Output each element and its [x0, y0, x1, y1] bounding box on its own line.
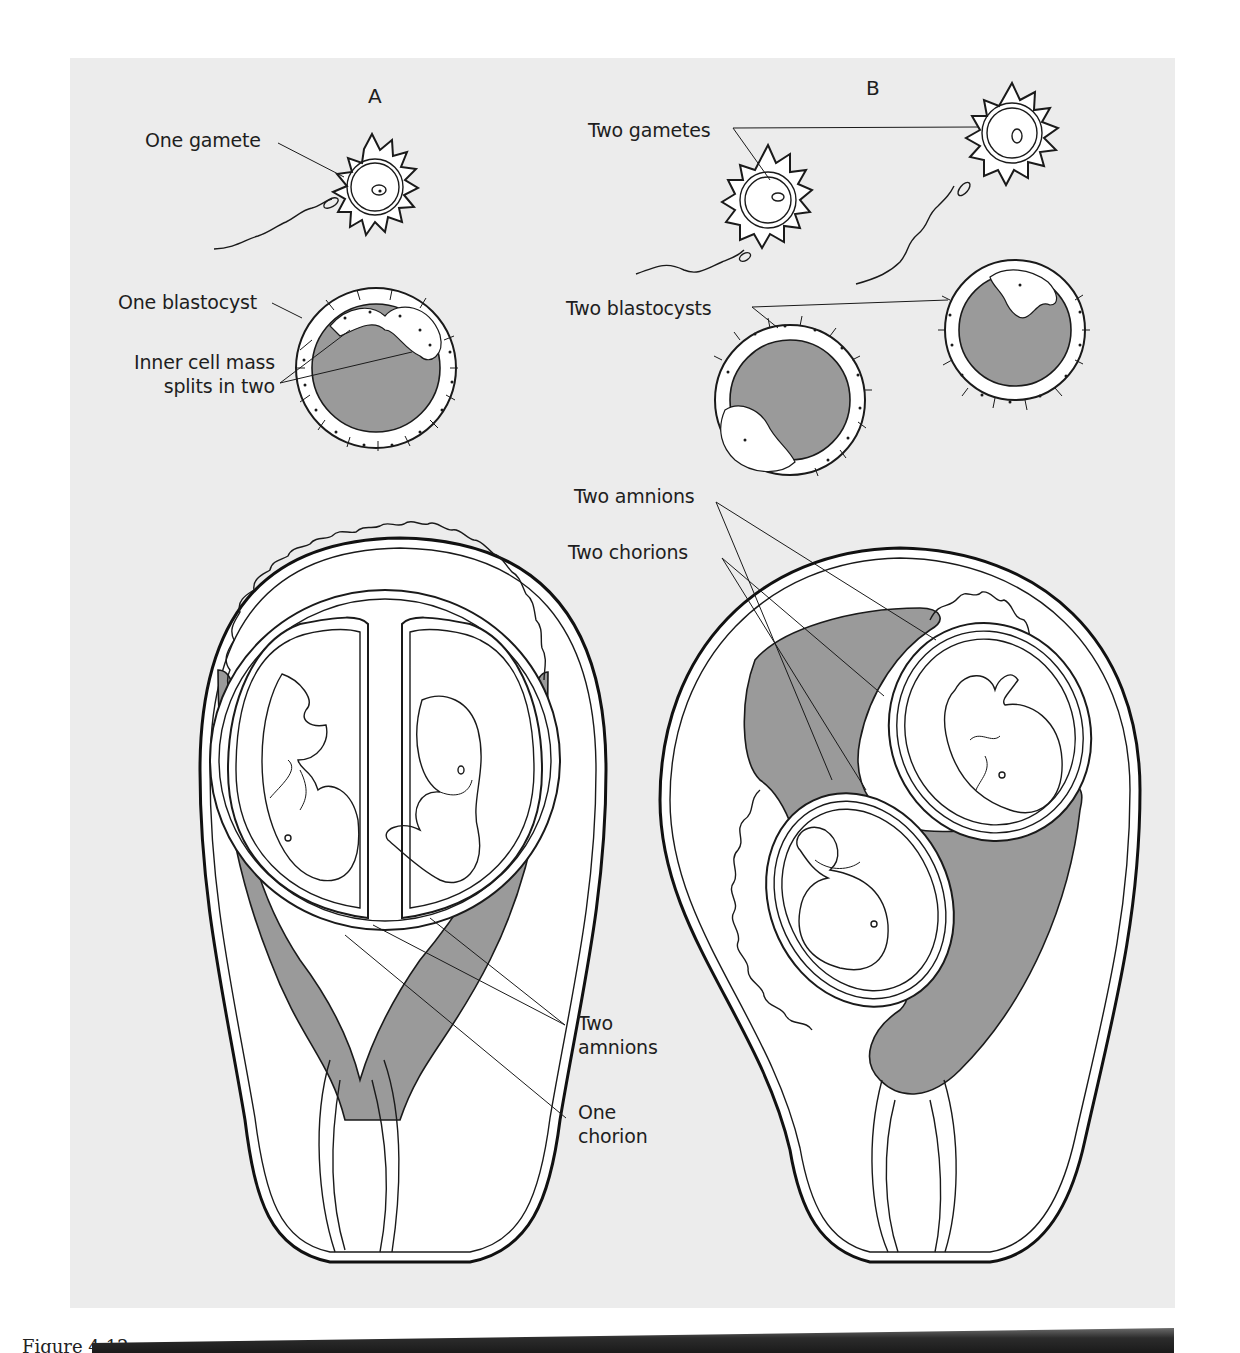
label-two-amnions-a: Two amnions — [578, 1011, 658, 1059]
blastocyst-a — [272, 288, 458, 451]
panel-a-header: A — [368, 84, 382, 108]
label-inner-cell-mass: Inner cell mass splits in two — [110, 350, 275, 398]
label-two-gametes: Two gametes — [588, 118, 710, 142]
uterus-b — [660, 502, 1140, 1262]
label-one-blastocyst: One blastocyst — [118, 290, 257, 314]
label-one-gamete: One gamete — [145, 128, 261, 152]
gametes-b — [636, 83, 1058, 284]
panel-b-header: B — [866, 76, 880, 100]
label-two-chorions: Two chorions — [568, 540, 688, 564]
label-two-amnions-b: Two amnions — [574, 484, 695, 508]
blastocysts-b — [714, 260, 1090, 476]
label-one-chorion: One chorion — [578, 1100, 647, 1148]
label-two-blastocysts: Two blastocysts — [566, 296, 712, 320]
uterus-a — [200, 522, 606, 1262]
twin-formation-diagram: .o { fill:#fff; stroke:#1a1a1a; stroke-w… — [0, 0, 1240, 1353]
